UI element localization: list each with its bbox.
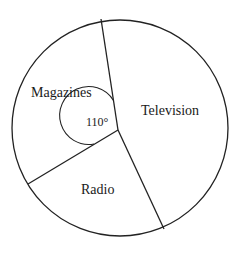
pie-chart: Magazines Television Radio 110°: [0, 0, 237, 253]
label-magazines: Magazines: [31, 85, 92, 100]
label-angle: 110°: [86, 115, 109, 129]
divider-left: [28, 130, 118, 184]
divider-top: [101, 19, 118, 130]
pie-outline: [12, 20, 228, 236]
divider-bottom: [118, 130, 164, 229]
label-television: Television: [141, 103, 199, 118]
label-radio: Radio: [81, 182, 114, 197]
